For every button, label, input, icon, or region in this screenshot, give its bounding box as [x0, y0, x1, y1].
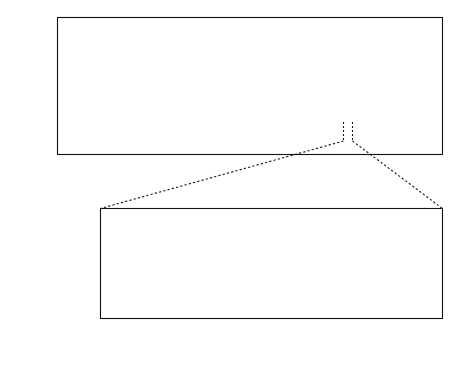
scientific-figure	[0, 0, 455, 377]
figure-background	[0, 0, 455, 377]
figure-container	[0, 0, 455, 377]
